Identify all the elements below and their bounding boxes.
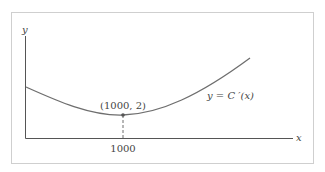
x-axis-label: x [296, 132, 302, 143]
y-axis-label: y [21, 24, 28, 35]
minimum-point-marker [121, 113, 125, 117]
x-tick-label-1000: 1000 [110, 143, 135, 154]
figure-frame [12, 13, 314, 164]
curve-label: y = C ′(x) [206, 90, 254, 101]
minimum-point-label: (1000, 2) [100, 100, 146, 111]
marginal-cost-diagram: y x (1000, 2) 1000 y = C ′(x) [0, 0, 325, 172]
diagram-canvas: y x (1000, 2) 1000 y = C ′(x) [0, 0, 325, 172]
